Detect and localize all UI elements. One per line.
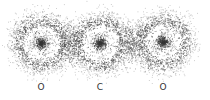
atom-label-carbon: C <box>97 82 103 92</box>
atom-label-oxygen-left: O <box>37 82 44 92</box>
atom-label-oxygen-right: O <box>159 82 166 92</box>
density-plot <box>0 0 210 100</box>
